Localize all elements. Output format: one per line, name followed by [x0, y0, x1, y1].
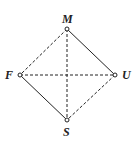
label-u: U	[122, 69, 131, 81]
edge-f-s	[20, 75, 67, 120]
node-u	[113, 73, 117, 77]
edge-m-u	[67, 29, 115, 75]
node-m	[65, 27, 69, 31]
edge-m-f	[20, 29, 67, 75]
edge-u-s	[67, 75, 115, 120]
label-s: S	[63, 126, 70, 138]
label-m: M	[62, 13, 73, 25]
node-s	[65, 118, 69, 122]
diagram-canvas: M F U S	[0, 0, 138, 142]
node-f	[18, 73, 22, 77]
label-f: F	[5, 69, 13, 81]
